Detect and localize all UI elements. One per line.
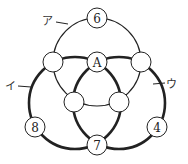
label-a-leader-line [56,22,68,24]
node-center-top: A [87,52,107,72]
node-inner-left [64,92,84,112]
label-a: ア [42,15,53,28]
node-upper-left [43,52,63,72]
three-circle-diagram: アイウ 6A847 [0,0,188,164]
nodes: 6A847 [25,8,167,155]
node-upper-left-circle [43,52,63,72]
node-top-value: 6 [93,12,101,26]
label-u: ウ [166,78,177,91]
node-center-top-value: A [92,56,102,70]
node-top: 6 [87,8,107,28]
circles [29,18,165,149]
node-inner-right [109,92,129,112]
node-inner-right-circle [109,92,129,112]
node-inner-left-circle [64,92,84,112]
label-i-leader-line [18,86,31,87]
node-bottom-value: 7 [93,139,101,153]
node-bottom: 7 [87,135,107,155]
label-u-leader-line [153,83,165,84]
node-right-value: 4 [153,121,161,135]
node-upper-right-circle [131,52,151,72]
node-left: 8 [25,117,45,137]
node-left-value: 8 [31,121,39,135]
node-right: 4 [147,117,167,137]
label-i: イ [5,80,16,93]
node-upper-right [131,52,151,72]
